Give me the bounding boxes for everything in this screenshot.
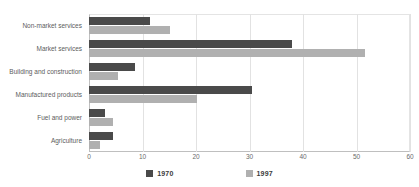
bar-1997 <box>89 95 197 103</box>
y-axis-category-label: Market services <box>36 37 82 60</box>
gridline <box>410 14 411 152</box>
y-axis-category-label: Building and construction <box>9 60 82 83</box>
y-axis-category-label: Non-market services <box>22 14 82 37</box>
bar-rows <box>89 14 410 152</box>
bar-row <box>89 14 410 37</box>
chart-legend: 19701997 <box>0 166 419 180</box>
bar-1970 <box>89 132 113 140</box>
plot-area <box>89 14 410 152</box>
bar-1970 <box>89 109 105 117</box>
bar-row <box>89 60 410 83</box>
y-axis-category-label: Manufactured products <box>16 83 82 106</box>
bar-1997 <box>89 26 170 34</box>
legend-item: 1970 <box>146 170 173 177</box>
legend-label: 1997 <box>257 170 273 177</box>
x-axis-tick-label: 30 <box>246 153 253 160</box>
x-axis-tick-labels: 0102030405060 <box>89 153 410 165</box>
bar-1997 <box>89 118 113 126</box>
x-axis-tick-label: 60 <box>406 153 413 160</box>
bar-1997 <box>89 141 100 149</box>
bar-1970 <box>89 40 292 48</box>
legend-item: 1997 <box>246 170 273 177</box>
bar-1970 <box>89 63 135 71</box>
x-axis-tick-label: 20 <box>192 153 199 160</box>
y-axis-category-label: Agriculture <box>51 129 82 152</box>
x-axis-tick-label: 40 <box>299 153 306 160</box>
legend-swatch-1997 <box>246 170 253 177</box>
bar-row <box>89 106 410 129</box>
legend-label: 1970 <box>157 170 173 177</box>
y-axis-category-label: Fuel and power <box>37 106 82 129</box>
bar-chart: Non-market servicesMarket servicesBuildi… <box>0 0 419 187</box>
bar-1997 <box>89 49 365 57</box>
x-axis-tick-label: 50 <box>353 153 360 160</box>
x-axis-tick-label: 0 <box>87 153 91 160</box>
bar-1997 <box>89 72 118 80</box>
bar-1970 <box>89 17 150 25</box>
bar-row <box>89 129 410 152</box>
bar-1970 <box>89 86 252 94</box>
y-axis-category-labels: Non-market servicesMarket servicesBuildi… <box>0 14 85 152</box>
x-axis-tick-label: 10 <box>139 153 146 160</box>
bar-row <box>89 37 410 60</box>
legend-swatch-1970 <box>146 170 153 177</box>
bar-row <box>89 83 410 106</box>
